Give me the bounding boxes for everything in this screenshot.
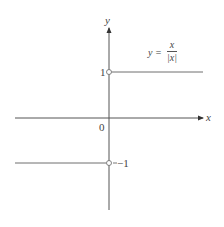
function-label-fraction: x |x| — [167, 40, 177, 63]
function-label-lhs: y = — [148, 48, 162, 58]
origin-label: 0 — [99, 122, 105, 133]
y-tick-label-neg1: −1 — [117, 158, 129, 169]
open-point-lower — [107, 161, 112, 166]
open-point-upper — [107, 70, 112, 75]
fraction-denominator: |x| — [167, 52, 177, 63]
y-tick-label-1: 1 — [100, 67, 106, 78]
fraction-numerator: x — [169, 40, 175, 51]
y-axis-label: y — [105, 15, 110, 26]
plot-canvas — [0, 0, 224, 227]
x-axis-label: x — [206, 112, 211, 123]
step-function-figure: y x 0 1 −1 y = x |x| — [0, 0, 224, 227]
